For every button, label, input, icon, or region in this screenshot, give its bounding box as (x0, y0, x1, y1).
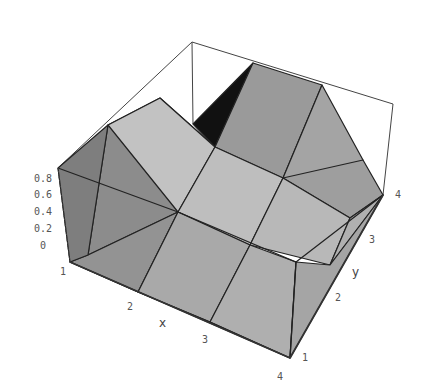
svg-text:4: 4 (395, 189, 401, 200)
svg-text:1: 1 (60, 266, 66, 277)
svg-text:0: 0 (40, 240, 46, 251)
svg-text:0.4: 0.4 (34, 206, 52, 217)
svg-text:1: 1 (302, 352, 308, 363)
svg-text:3: 3 (202, 334, 208, 345)
svg-text:0.6: 0.6 (34, 189, 52, 200)
x-axis-label: x (159, 316, 166, 330)
surface-plot: 0.8 0.6 0.4 0.2 0 1 2 3 4 x 1 2 3 4 y (0, 0, 431, 390)
z-axis-ticks: 0.8 0.6 0.4 0.2 0 (34, 173, 52, 251)
svg-text:2: 2 (335, 292, 341, 303)
svg-text:4: 4 (277, 371, 283, 382)
svg-text:0.8: 0.8 (34, 173, 52, 184)
surface-faces (58, 63, 383, 358)
svg-text:3: 3 (369, 234, 375, 245)
y-axis-label: y (352, 265, 359, 279)
svg-text:2: 2 (127, 301, 133, 312)
svg-text:0.2: 0.2 (34, 223, 52, 234)
